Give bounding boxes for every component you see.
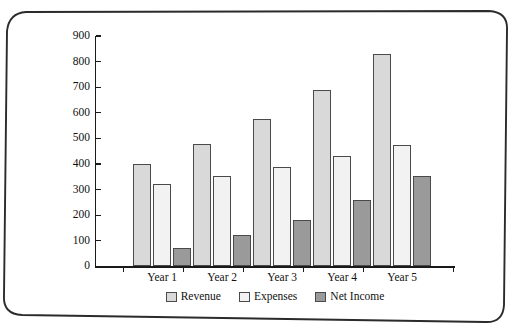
y-tick-0	[96, 266, 101, 267]
legend-item-net-income[interactable]: Net Income	[315, 291, 384, 303]
y-tick-label-text: 800	[44, 56, 90, 68]
y-tick-label-text: 300	[44, 184, 90, 196]
y-tick-label-500: 500	[38, 132, 90, 144]
y-tick-100	[96, 240, 101, 241]
y-tick-700	[96, 87, 101, 88]
bar-revenue-year-5	[373, 54, 392, 266]
y-tick-label-text: 400	[44, 158, 90, 170]
y-tick-800	[96, 61, 101, 62]
bar-revenue-year-1	[133, 164, 152, 266]
legend-swatch-expenses	[239, 292, 250, 302]
bar-expenses-year-1	[153, 184, 172, 266]
y-tick-label-text: 900	[44, 30, 90, 42]
bar-revenue-year-4	[313, 90, 332, 267]
y-tick-label-text: 500	[44, 132, 90, 144]
legend-label-net-income: Net Income	[330, 291, 384, 303]
bar-net-income-year-3	[293, 220, 312, 267]
y-tick-label-text: 200	[44, 209, 90, 221]
grouped-bar-chart: 0100200300400500600700800900 Year 1Year …	[0, 0, 512, 328]
y-tick-200	[96, 215, 101, 216]
y-tick-label-800: 800	[38, 56, 90, 68]
y-tick-400	[96, 163, 101, 164]
bar-revenue-year-3	[253, 119, 272, 266]
y-tick-label-text: 700	[44, 81, 90, 93]
y-tick-600	[96, 112, 101, 113]
bar-expenses-year-2	[213, 176, 232, 267]
y-tick-900	[96, 35, 101, 36]
y-tick-label-0: 0	[38, 260, 90, 272]
x-label-year-5: Year 5	[362, 271, 442, 284]
y-tick-500	[96, 138, 101, 139]
chart-legend: RevenueExpensesNet Income	[95, 288, 455, 306]
bar-net-income-year-4	[353, 200, 372, 266]
y-axis-line	[95, 36, 96, 267]
legend-swatch-net-income	[315, 292, 326, 302]
bar-revenue-year-2	[193, 144, 212, 267]
x-axis-line	[95, 266, 455, 267]
legend-label-revenue: Revenue	[181, 291, 221, 303]
y-tick-label-300: 300	[38, 184, 90, 196]
bar-net-income-year-5	[413, 176, 432, 266]
y-tick-label-400: 400	[38, 158, 90, 170]
legend-item-revenue[interactable]: Revenue	[166, 291, 221, 303]
bar-net-income-year-1	[173, 248, 192, 267]
chart-page: 0100200300400500600700800900 Year 1Year …	[0, 0, 512, 328]
legend-label-expenses: Expenses	[254, 291, 297, 303]
y-tick-label-100: 100	[38, 235, 90, 247]
y-tick-label-900: 900	[38, 30, 90, 42]
legend-swatch-revenue	[166, 292, 177, 302]
y-tick-label-text: 0	[44, 260, 90, 272]
y-tick-label-text: 100	[44, 235, 90, 247]
y-tick-label-600: 600	[38, 107, 90, 119]
bar-net-income-year-2	[233, 235, 252, 266]
y-tick-label-200: 200	[38, 209, 90, 221]
y-tick-label-700: 700	[38, 81, 90, 93]
x-tick-end	[453, 267, 454, 272]
y-tick-300	[96, 189, 101, 190]
bar-expenses-year-3	[273, 167, 292, 267]
bar-expenses-year-4	[333, 156, 352, 266]
bar-expenses-year-5	[393, 145, 412, 267]
legend-item-expenses[interactable]: Expenses	[239, 291, 297, 303]
y-tick-label-text: 600	[44, 107, 90, 119]
